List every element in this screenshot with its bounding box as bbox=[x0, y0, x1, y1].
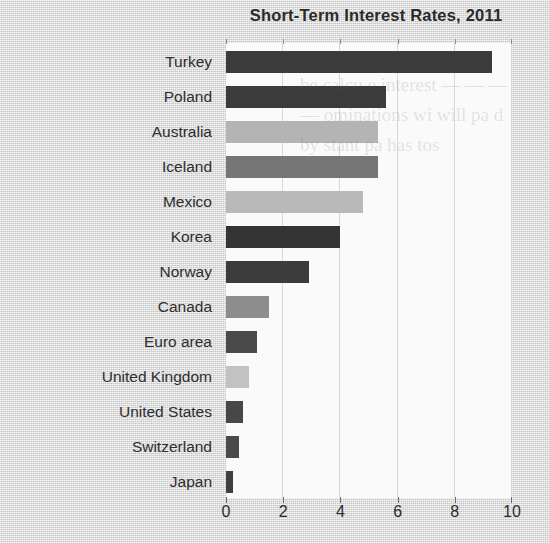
bar-canada[interactable] bbox=[226, 296, 269, 318]
y-label-mexico: Mexico bbox=[163, 191, 212, 213]
axis-tick-top-2 bbox=[283, 39, 284, 44]
bar-australia[interactable] bbox=[226, 121, 378, 143]
gridline-x-6 bbox=[397, 43, 398, 498]
bar-united-states[interactable] bbox=[226, 401, 243, 423]
bar-poland[interactable] bbox=[226, 86, 386, 108]
x-tick-label-4: 4 bbox=[336, 503, 345, 521]
y-label-switzerland: Switzerland bbox=[132, 436, 212, 458]
x-tick-label-10: 10 bbox=[503, 503, 521, 521]
page-title: Short-Term Interest Rates, 2011 bbox=[206, 6, 546, 25]
bar-korea[interactable] bbox=[226, 226, 340, 248]
gridline-x-8 bbox=[454, 43, 455, 498]
y-label-united-kingdom: United Kingdom bbox=[102, 366, 212, 388]
y-label-japan: Japan bbox=[170, 471, 212, 493]
x-axis-labels: 0246810 bbox=[226, 503, 512, 533]
gridline-x-10 bbox=[511, 43, 512, 498]
y-label-canada: Canada bbox=[158, 296, 212, 318]
y-label-australia: Australia bbox=[152, 121, 212, 143]
y-label-poland: Poland bbox=[164, 86, 212, 108]
y-label-turkey: Turkey bbox=[165, 51, 212, 73]
axis-tick-top-6 bbox=[398, 39, 399, 44]
axis-tick-top-10 bbox=[511, 39, 512, 44]
x-tick-label-2: 2 bbox=[279, 503, 288, 521]
bar-switzerland[interactable] bbox=[226, 436, 239, 458]
bar-iceland[interactable] bbox=[226, 156, 378, 178]
bar-united-kingdom[interactable] bbox=[226, 366, 249, 388]
y-label-euro-area: Euro area bbox=[144, 331, 212, 353]
y-label-united-states: United States bbox=[119, 401, 212, 423]
y-label-korea: Korea bbox=[171, 226, 212, 248]
axis-tick-top-4 bbox=[340, 39, 341, 44]
bar-euro-area[interactable] bbox=[226, 331, 257, 353]
plot-area bbox=[226, 43, 512, 498]
y-label-norway: Norway bbox=[159, 261, 212, 283]
bar-turkey[interactable] bbox=[226, 51, 492, 73]
x-tick-label-6: 6 bbox=[393, 503, 402, 521]
x-tick-label-8: 8 bbox=[450, 503, 459, 521]
x-tick-label-0: 0 bbox=[222, 503, 231, 521]
gridline-x-4 bbox=[339, 43, 340, 498]
y-label-iceland: Iceland bbox=[162, 156, 212, 178]
axis-tick-top-0 bbox=[226, 39, 227, 44]
bar-norway[interactable] bbox=[226, 261, 309, 283]
bar-chart-figure: Short-Term Interest Rates, 2011 be calcu… bbox=[0, 0, 550, 543]
bar-mexico[interactable] bbox=[226, 191, 363, 213]
y-axis-labels: TurkeyPolandAustraliaIcelandMexicoKoreaN… bbox=[0, 43, 220, 498]
bar-japan[interactable] bbox=[226, 471, 233, 493]
axis-tick-top-8 bbox=[455, 39, 456, 44]
